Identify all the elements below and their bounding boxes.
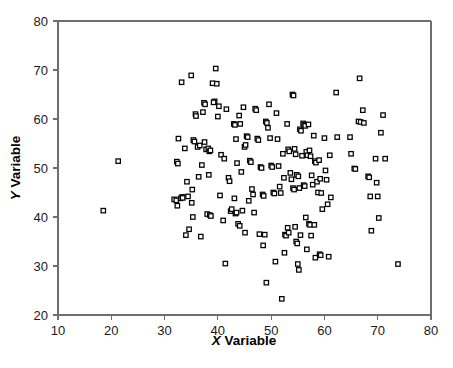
data-point-marker [101, 208, 105, 212]
data-point-marker [261, 243, 265, 247]
data-point-marker [203, 102, 207, 106]
data-point-marker [216, 114, 220, 118]
data-point-marker [282, 251, 286, 255]
data-point-marker [379, 131, 383, 135]
data-point-marker [267, 102, 271, 106]
data-point-marker [361, 108, 365, 112]
data-point-marker [251, 192, 255, 196]
data-point-marker [246, 135, 250, 139]
data-point-marker [227, 179, 231, 183]
data-point-marker [353, 167, 357, 171]
data-point-marker [369, 229, 373, 233]
data-point-marker [309, 233, 313, 237]
data-point-marker [328, 153, 332, 157]
data-point-marker [221, 218, 225, 222]
data-point-marker [191, 215, 195, 219]
data-point-marker [396, 262, 400, 266]
x-axis-title-text: Variable [221, 333, 277, 348]
y-tick-label: 40 [34, 210, 48, 225]
y-axis-title: Y Variable [8, 135, 23, 200]
data-point-marker [234, 210, 238, 214]
data-point-marker [252, 210, 256, 214]
data-point-marker [289, 177, 293, 181]
data-point-marker [377, 216, 381, 220]
data-point-marker [381, 113, 385, 117]
data-point-marker [201, 110, 205, 114]
data-point-marker [222, 156, 226, 160]
data-point-marker [295, 241, 299, 245]
data-point-marker [192, 139, 196, 143]
y-axis-title-text: Variable [8, 135, 23, 191]
data-point-marker [323, 168, 327, 172]
data-point-marker [296, 262, 300, 266]
data-point-marker [280, 297, 284, 301]
data-point-marker [217, 104, 221, 108]
data-point-marker [198, 143, 202, 147]
data-point-marker [298, 233, 302, 237]
data-point-marker [357, 76, 361, 80]
x-axis-title: X Variable [211, 333, 277, 348]
data-point-marker [224, 107, 228, 111]
data-point-marker [254, 108, 258, 112]
data-point-marker [281, 152, 285, 156]
chart-canvas: 1020304050607080 20304050607080 X Variab… [0, 0, 453, 368]
data-point-marker [325, 202, 329, 206]
data-point-marker [256, 138, 260, 142]
data-point-marker [272, 191, 276, 195]
y-tick-label: 20 [34, 308, 48, 323]
x-tick-label: 70 [370, 323, 384, 338]
data-point-marker [276, 164, 280, 168]
data-point-marker [308, 154, 312, 158]
data-point-marker [299, 129, 303, 133]
data-point-marker [247, 199, 251, 203]
data-point-marker [326, 254, 330, 258]
y-tick-label: 80 [34, 14, 48, 29]
data-point-marker [259, 166, 263, 170]
data-point-marker [176, 161, 180, 165]
x-tick-label: 20 [104, 323, 118, 338]
data-point-marker [235, 161, 239, 165]
data-point-marker [209, 214, 213, 218]
data-point-marker [202, 140, 206, 144]
data-point-marker [318, 177, 322, 181]
data-point-marker [190, 187, 194, 191]
data-point-marker [305, 247, 309, 251]
data-point-marker [285, 226, 289, 230]
x-tick-label: 60 [317, 323, 331, 338]
data-point-marker [334, 90, 338, 94]
data-point-marker [292, 187, 296, 191]
data-point-marker [268, 136, 272, 140]
data-point-marker [215, 82, 219, 86]
data-point-marker [367, 175, 371, 179]
data-point-marker [200, 163, 204, 167]
data-point-marker [264, 280, 268, 284]
y-axis-ticks: 20304050607080 [34, 14, 58, 323]
data-point-marker [230, 207, 234, 211]
data-point-marker [190, 201, 194, 205]
data-point-marker [240, 208, 244, 212]
data-point-marker [194, 114, 198, 118]
data-point-marker [176, 136, 180, 140]
data-point-marker [274, 111, 278, 115]
data-points-layer [101, 66, 400, 301]
data-point-marker [303, 184, 307, 188]
data-point-marker [211, 100, 215, 104]
data-point-marker [257, 232, 261, 236]
data-point-marker [282, 176, 286, 180]
data-point-marker [368, 194, 372, 198]
data-point-marker [184, 233, 188, 237]
data-point-marker [307, 148, 311, 152]
data-point-marker [270, 165, 274, 169]
data-point-marker [266, 126, 270, 130]
data-point-marker [199, 234, 203, 238]
data-point-marker [319, 191, 323, 195]
data-point-marker [214, 66, 218, 70]
data-point-marker [233, 123, 237, 127]
data-point-marker [335, 135, 339, 139]
x-tick-label: 80 [424, 323, 438, 338]
data-point-marker [292, 147, 296, 151]
data-point-marker [288, 171, 292, 175]
data-point-marker [263, 232, 267, 236]
data-point-marker [223, 261, 227, 265]
data-point-marker [324, 178, 328, 182]
